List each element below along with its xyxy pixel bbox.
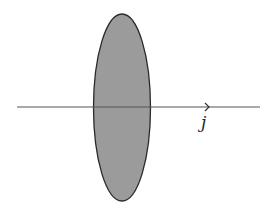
diagram-svg xyxy=(0,0,274,215)
diagram-canvas: j xyxy=(0,0,274,215)
axis-label-j: j xyxy=(201,112,206,132)
